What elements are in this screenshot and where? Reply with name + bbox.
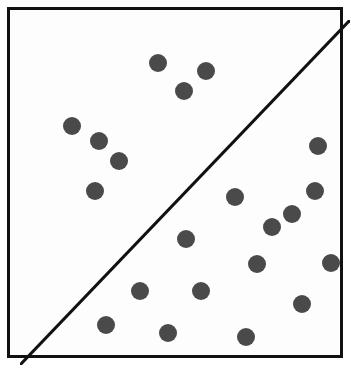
scatter-dot — [306, 182, 324, 200]
scatter-dot — [63, 117, 81, 135]
plot-area — [20, 20, 350, 365]
scatter-dot — [197, 62, 215, 80]
figure-canvas — [0, 0, 351, 371]
scatter-dot — [149, 54, 167, 72]
scatter-dot — [159, 324, 177, 342]
scatter-dot — [237, 328, 255, 346]
scatter-dot — [226, 188, 244, 206]
scatter-dot — [283, 205, 301, 223]
scatter-dot — [86, 182, 104, 200]
scatter-dot — [110, 152, 128, 170]
scatter-dot — [175, 82, 193, 100]
scatter-dot — [322, 254, 340, 272]
scatter-dot — [309, 137, 327, 155]
diagonal-divider-line — [20, 20, 350, 365]
scatter-dot — [90, 132, 108, 150]
scatter-dot — [192, 282, 210, 300]
square-frame — [7, 7, 343, 358]
scatter-dot — [248, 255, 266, 273]
divider-stroke — [20, 20, 350, 365]
scatter-dot — [131, 282, 149, 300]
scatter-dot — [97, 316, 115, 334]
scatter-dot — [177, 230, 195, 248]
scatter-dot — [263, 218, 281, 236]
scatter-dot — [293, 295, 311, 313]
